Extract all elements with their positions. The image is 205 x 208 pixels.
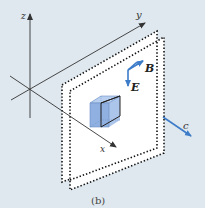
c-vector-label: c — [183, 120, 189, 131]
em-wave-diagram: z y x B E c (b) — [0, 0, 205, 208]
b-vector-label: B — [144, 62, 154, 75]
figure-caption: (b) — [91, 195, 105, 206]
x-axis-label: x — [100, 144, 105, 154]
y-axis-label: y — [135, 9, 142, 20]
diagram-canvas: z y x B E c (b) — [0, 0, 205, 208]
z-axis-label: z — [20, 11, 26, 21]
e-vector-label: E — [130, 81, 140, 94]
volume-element-cube — [90, 96, 120, 127]
